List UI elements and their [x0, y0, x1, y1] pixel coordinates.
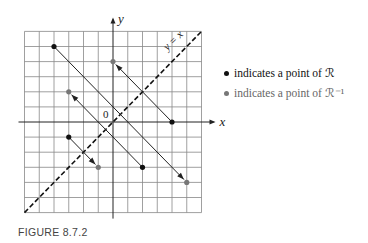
- x-axis-label: x: [219, 114, 226, 129]
- figure-caption: FIGURE 8.7.2: [18, 226, 88, 238]
- y-axis-arrow-icon: [111, 17, 116, 23]
- legend-rinv-text: indicates a point of ℛ⁻¹: [234, 87, 344, 99]
- point-r: [51, 44, 56, 49]
- y-axis-label: y: [116, 11, 124, 26]
- point-r-inverse: [184, 180, 189, 185]
- point-r: [140, 165, 145, 170]
- origin-label: 0: [103, 108, 109, 120]
- legend-item-rinv: indicates a point of ℛ⁻¹: [224, 86, 344, 100]
- point-r: [66, 135, 71, 140]
- point-r-inverse: [110, 59, 115, 64]
- x-axis-arrow-icon: [210, 120, 216, 125]
- relation-inverse-figure: xy0y = x: [0, 0, 368, 243]
- mapping-line: [72, 95, 143, 168]
- mapping-line: [116, 64, 172, 122]
- legend-item-r: indicates a point of ℛ: [224, 66, 335, 80]
- point-r-inverse: [66, 89, 71, 94]
- point-r-inverse: [96, 165, 101, 170]
- legend-r-text: indicates a point of ℛ: [234, 67, 335, 79]
- black-dot-icon: [224, 71, 229, 76]
- point-r: [169, 119, 174, 124]
- gray-dot-icon: [224, 91, 229, 96]
